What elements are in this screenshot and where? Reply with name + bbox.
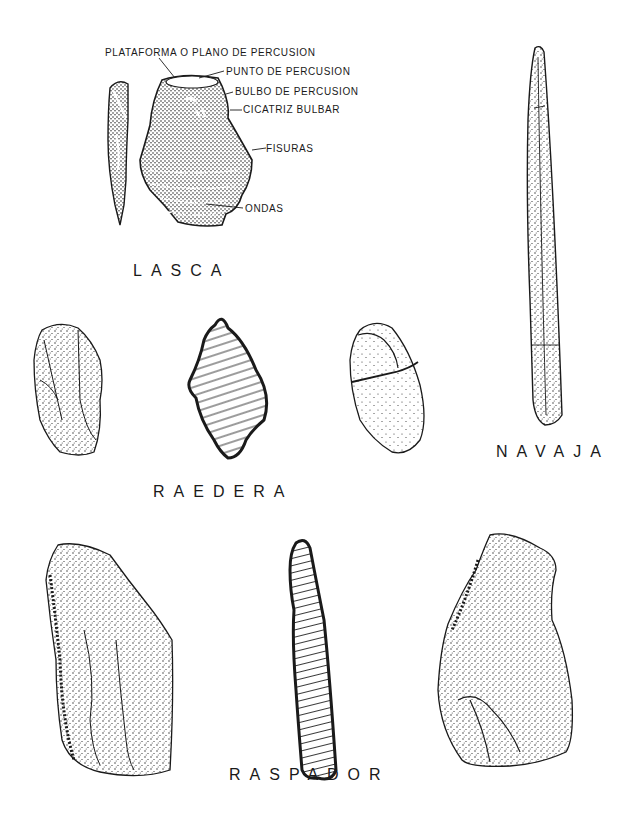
title-raedera: RAEDERA xyxy=(153,483,293,501)
label-punto-de-percusion: PUNTO DE PERCUSION xyxy=(226,66,351,78)
raspador-right-view xyxy=(438,534,572,766)
title-raspador: RASPADOR xyxy=(229,766,390,784)
title-navaja: NAVAJA xyxy=(496,443,610,461)
raedera-left-view xyxy=(34,324,102,455)
label-cicatriz-bulbar: CICATRIZ BULBAR xyxy=(243,104,340,116)
label-plataforma: PLATAFORMA O PLANO DE PERCUSION xyxy=(105,47,316,59)
stone-tools-plate: PLATAFORMA O PLANO DE PERCUSION PUNTO DE… xyxy=(0,0,631,818)
lasca-side-view xyxy=(108,82,128,225)
label-bulbo-de-percusion: BULBO DE PERCUSION xyxy=(235,86,359,98)
raspador-cross-section xyxy=(290,540,336,779)
label-ondas: ONDAS xyxy=(245,203,284,215)
illustrations xyxy=(0,0,631,818)
raedera-right-view xyxy=(350,323,424,452)
raspador-left-view xyxy=(46,544,173,776)
label-fisuras: FISURAS xyxy=(266,143,314,155)
lasca-flake xyxy=(140,75,252,226)
title-lasca: LASCA xyxy=(133,262,230,280)
raedera-cross-section xyxy=(189,319,267,458)
navaja-blade xyxy=(527,47,562,425)
